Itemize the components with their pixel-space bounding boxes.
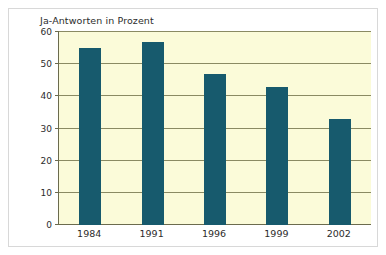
y-axis-label: 50: [41, 59, 52, 69]
y-axis-label: 30: [41, 124, 52, 134]
bar-slot: [309, 32, 371, 225]
x-axis-label: 1991: [140, 228, 164, 239]
bar[interactable]: [142, 42, 164, 225]
y-axis-label: 20: [41, 156, 52, 166]
y-axis-label: 60: [41, 27, 52, 37]
bar[interactable]: [266, 87, 288, 225]
x-axis-label: 1999: [264, 228, 288, 239]
bar-slot: [59, 32, 121, 225]
x-axis-label: 1996: [202, 228, 226, 239]
bar-slot: [121, 32, 183, 225]
bar-slot: [184, 32, 246, 225]
plot-area: 0102030405060: [58, 32, 371, 225]
chart-figure: Ja-Antworten in Prozent 0102030405060 19…: [8, 8, 378, 247]
bars-group: [59, 32, 371, 225]
x-axis-label: 1984: [77, 228, 101, 239]
chart-title: Ja-Antworten in Prozent: [40, 15, 154, 26]
x-axis-labels: 19841991199619992002: [58, 228, 371, 244]
bar[interactable]: [204, 74, 226, 225]
y-axis-label: 0: [46, 220, 52, 230]
y-axis-label: 10: [41, 188, 52, 198]
bar[interactable]: [79, 48, 101, 225]
y-axis-label: 40: [41, 91, 52, 101]
bar-slot: [246, 32, 308, 225]
x-axis-label: 2002: [327, 228, 351, 239]
bar[interactable]: [329, 119, 351, 225]
